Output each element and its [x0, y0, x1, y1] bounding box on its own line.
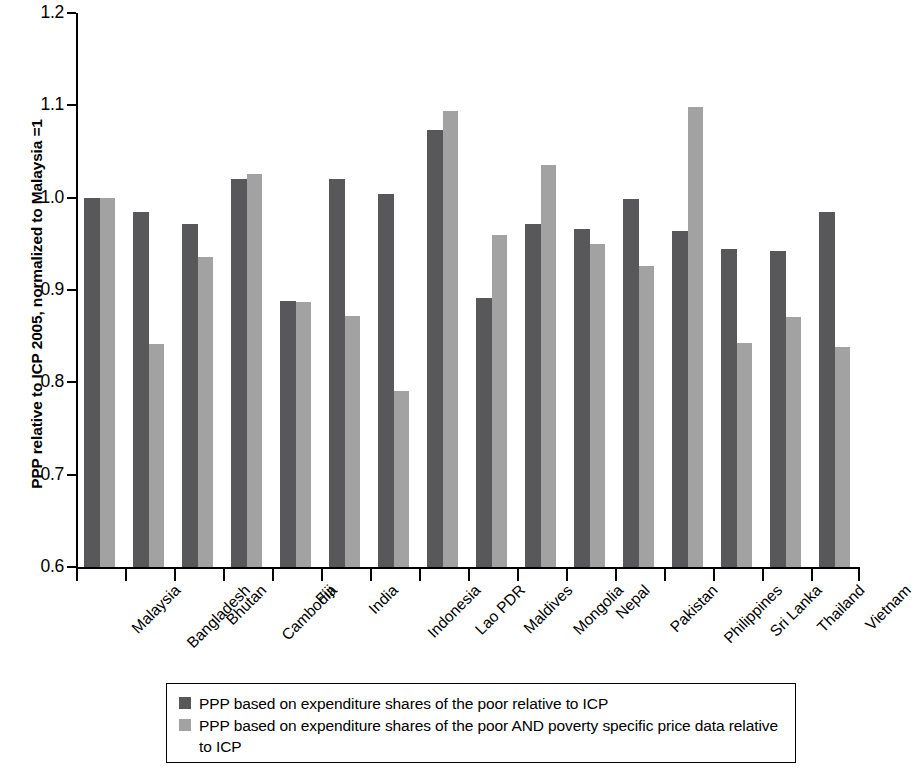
- bar: [329, 179, 345, 567]
- bar: [247, 174, 263, 567]
- legend-label: PPP based on expenditure shares of the p…: [199, 693, 608, 714]
- x-axis-category-label: Pakistan: [668, 582, 721, 635]
- x-axis-category-label: India: [366, 582, 401, 617]
- bar: [427, 130, 443, 567]
- bar: [133, 212, 149, 567]
- bar: [786, 317, 802, 567]
- bar: [198, 257, 214, 567]
- y-tick-label: 1.1: [41, 97, 64, 115]
- legend-swatch-icon: [179, 719, 191, 731]
- bar: [345, 316, 361, 567]
- bar: [149, 344, 165, 567]
- y-tick-label: 0.7: [41, 466, 64, 484]
- x-tick-mark: [615, 569, 617, 581]
- bar: [721, 249, 737, 567]
- y-tick-mark: [67, 197, 76, 199]
- legend-swatch-icon: [179, 697, 191, 709]
- x-tick-mark: [125, 569, 127, 581]
- x-tick-mark: [468, 569, 470, 581]
- y-axis-line: [76, 13, 78, 569]
- bar: [819, 212, 835, 567]
- y-tick-mark: [67, 289, 76, 291]
- x-tick-mark: [272, 569, 274, 581]
- legend-item: PPP based on expenditure shares of the p…: [179, 693, 785, 714]
- x-tick-mark: [713, 569, 715, 581]
- bar: [688, 107, 704, 567]
- bar: [100, 198, 116, 567]
- x-axis-category-label: Thailand: [815, 582, 868, 635]
- x-tick-mark: [419, 569, 421, 581]
- x-tick-mark: [174, 569, 176, 581]
- y-tick-mark: [67, 12, 76, 14]
- bar: [835, 347, 851, 567]
- bar: [296, 302, 312, 567]
- y-tick-mark: [67, 566, 76, 568]
- bar: [492, 235, 508, 567]
- x-tick-mark: [566, 569, 568, 581]
- y-tick-mark: [67, 474, 76, 476]
- y-tick-label: 0.9: [41, 281, 64, 299]
- bar: [672, 231, 688, 567]
- bar: [280, 301, 296, 567]
- bar: [623, 199, 639, 567]
- x-tick-mark: [762, 569, 764, 581]
- bar: [590, 244, 606, 567]
- x-tick-mark: [370, 569, 372, 581]
- x-axis-category-label: Malaysia: [129, 582, 183, 636]
- x-tick-mark: [76, 569, 78, 581]
- y-tick-label: 1.0: [41, 189, 64, 207]
- bar: [574, 229, 590, 567]
- bar: [378, 194, 394, 567]
- bar: [541, 165, 557, 567]
- x-tick-mark: [858, 569, 860, 581]
- bar: [84, 198, 100, 567]
- bar: [639, 266, 655, 567]
- y-tick-label: 1.2: [41, 4, 64, 22]
- x-axis-labels: MalaysiaBangladeshBhutanCambodiaFijiIndi…: [76, 582, 860, 677]
- x-tick-mark: [223, 569, 225, 581]
- y-tick-label: 0.8: [41, 374, 64, 392]
- x-axis-category-label: Maldives: [521, 582, 575, 636]
- chart-legend: PPP based on expenditure shares of the p…: [166, 683, 796, 763]
- x-tick-mark: [664, 569, 666, 581]
- legend-item: PPP based on expenditure shares of the p…: [179, 715, 785, 757]
- plot-area: 1.21.11.00.90.80.70.6: [76, 13, 860, 568]
- bar: [737, 343, 753, 567]
- x-axis-category-label: Indonesia: [425, 582, 484, 641]
- bar: [443, 111, 459, 567]
- x-tick-mark: [811, 569, 813, 581]
- x-tick-mark: [321, 569, 323, 581]
- bar: [394, 391, 410, 567]
- bar: [231, 179, 247, 567]
- y-tick-mark: [67, 381, 76, 383]
- x-axis-category-label: Vietnam: [863, 582, 914, 633]
- y-tick-mark: [67, 104, 76, 106]
- bar: [770, 251, 786, 567]
- bar: [182, 224, 198, 567]
- bar: [525, 224, 541, 567]
- y-tick-label: 0.6: [41, 558, 64, 576]
- x-tick-mark: [517, 569, 519, 581]
- legend-label: PPP based on expenditure shares of the p…: [199, 715, 785, 757]
- bar: [476, 298, 492, 567]
